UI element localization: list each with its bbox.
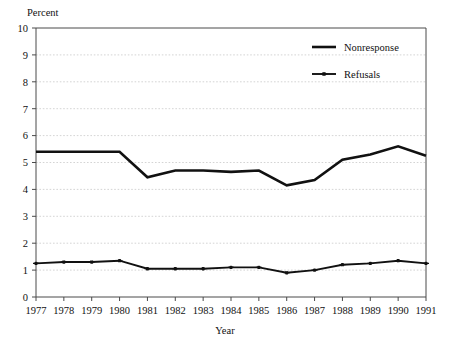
x-tick-label: 1977	[26, 305, 47, 316]
y-tick-label: 3	[23, 211, 28, 222]
x-tick-label: 1988	[332, 305, 353, 316]
x-tick-label: 1984	[221, 305, 243, 316]
x-tick-label: 1982	[165, 305, 186, 316]
x-axis-tick-labels: 1977197819791980198119821983198419851986…	[26, 305, 437, 316]
y-tick-label: 10	[18, 23, 29, 34]
y-tick-label: 2	[23, 238, 28, 249]
y-tick-label: 0	[23, 292, 28, 303]
y-tick-label: 7	[23, 104, 28, 115]
legend-label-nonresponse: Nonresponse	[344, 42, 399, 53]
x-tick-label: 1980	[109, 305, 130, 316]
x-tick-label: 1985	[248, 305, 269, 316]
x-tick-label: 1983	[193, 305, 214, 316]
y-tick-label: 8	[23, 77, 28, 88]
x-tick-label: 1990	[388, 305, 409, 316]
x-tick-label: 1986	[276, 305, 297, 316]
x-tick-label: 1979	[81, 305, 102, 316]
y-tick-label: 4	[23, 184, 29, 195]
x-tick-label: 1989	[360, 305, 381, 316]
y-axis-title: Percent	[27, 7, 59, 18]
x-axis-title: Year	[215, 325, 235, 336]
x-tick-label: 1978	[53, 305, 74, 316]
legend-label-refusals: Refusals	[344, 69, 380, 80]
line-chart: Percent 012345678910 1977197819791980198…	[0, 0, 450, 350]
chart-container: Percent 012345678910 1977197819791980198…	[0, 0, 450, 350]
y-tick-label: 9	[23, 50, 28, 61]
y-tick-label: 5	[23, 157, 28, 168]
x-tick-label: 1987	[304, 305, 325, 316]
y-tick-label: 6	[23, 130, 28, 141]
x-tick-label: 1991	[416, 305, 437, 316]
y-tick-label: 1	[23, 265, 28, 276]
x-tick-label: 1981	[137, 305, 158, 316]
